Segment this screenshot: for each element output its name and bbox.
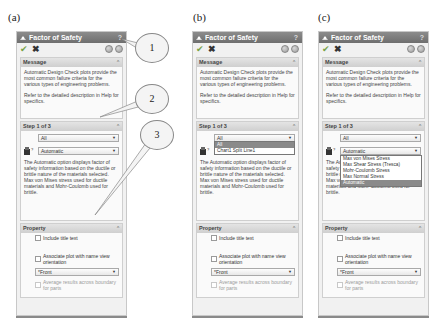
callout-2: 2 (135, 84, 169, 114)
callout-1: 1 (135, 33, 169, 63)
dropdown-option[interactable]: Chart1 Split Line1 (215, 148, 294, 154)
callout-3: 3 (140, 120, 174, 150)
criterion-dropdown-list: Max von Mises Stress Max Shear Stress (T… (340, 155, 422, 187)
bodies-dropdown-list: All Chart1 Split Line1 (214, 141, 295, 155)
dropdown-option[interactable]: Automatic (341, 180, 421, 186)
